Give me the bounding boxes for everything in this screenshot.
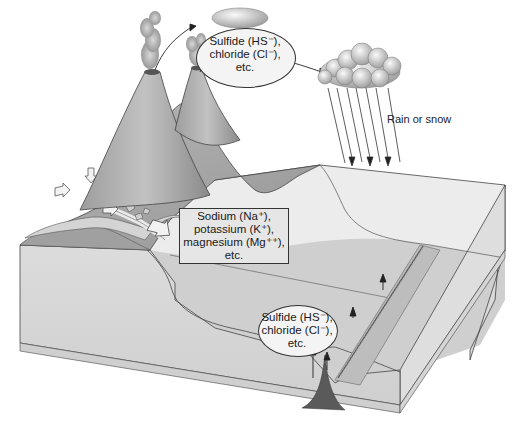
river-ions-line1: Sodium (Na⁺),	[179, 210, 289, 223]
vent-ions-line2: chloride (Cl⁻),	[252, 324, 342, 337]
atmosphere-ions-line1: Sulfide (HS⁻),	[196, 35, 294, 48]
atmosphere-ions-line2: chloride (Cl⁻),	[196, 48, 294, 61]
vent-ions-label: Sulfide (HS⁻), chloride (Cl⁻), etc.	[252, 311, 342, 350]
atmosphere-ions-line3: etc.	[196, 61, 294, 74]
rain-label: Rain or snow	[387, 113, 451, 125]
rain-streaks	[328, 88, 400, 166]
atmosphere-ions-label: Sulfide (HS⁻), chloride (Cl⁻), etc.	[196, 35, 294, 74]
river-ions-line4: etc.	[179, 249, 289, 262]
rain-cloud	[318, 43, 401, 88]
river-ions-line2: potassium (K⁺),	[179, 223, 289, 236]
volcanic-plume-left	[140, 11, 161, 69]
vent-ions-line3: etc.	[252, 337, 342, 350]
river-ions-label: Sodium (Na⁺), potassium (K⁺), magnesium …	[179, 210, 289, 262]
river-ions-line3: magnesium (Mg⁺⁺),	[179, 236, 289, 249]
vent-ions-line1: Sulfide (HS⁻),	[252, 311, 342, 324]
